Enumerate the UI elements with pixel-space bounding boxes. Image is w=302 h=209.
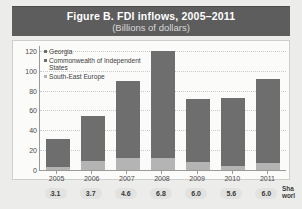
x-axis-label: 2010 (220, 175, 244, 183)
share-row-marker-dot (50, 194, 52, 196)
share-caption-line-1: Sha (282, 185, 302, 192)
x-axis-label: 2009 (185, 175, 209, 183)
y-tick-label: 100 (17, 67, 37, 74)
y-tick-label: 0 (17, 167, 37, 174)
legend-swatch-icon (44, 75, 47, 78)
x-axis-label: 2007 (115, 175, 139, 183)
figure-title-banner: Figure B. FDI inflows, 2005–2011 (Billio… (12, 6, 290, 36)
share-of-world-value: 5.6 (220, 188, 242, 199)
legend-item: South-East Europe (44, 73, 150, 81)
y-tick-label: 40 (17, 127, 37, 134)
bar-segment-south-east-europe (221, 166, 245, 170)
legend-label: South-East Europe (49, 73, 150, 81)
figure-subtitle: (Billions of dollars) (112, 22, 190, 33)
chart-plot-wrapper: 020406080100120 GeorgiaCommonwealth of I… (13, 41, 291, 181)
legend-label: Georgia (49, 48, 150, 56)
y-tick-label: 80 (17, 87, 37, 94)
bar[interactable] (116, 81, 140, 170)
share-of-world-row: 3.13.74.66.86.05.66.0 (38, 186, 284, 200)
x-tick-mark (232, 171, 233, 174)
share-of-world-value: 6.8 (150, 188, 172, 199)
share-of-world-value: 4.6 (115, 188, 137, 199)
y-tick-label: 60 (17, 107, 37, 114)
bar[interactable] (46, 139, 70, 170)
x-tick-mark (91, 171, 92, 174)
x-axis: 2005200620072008200920102011 (39, 171, 285, 187)
bar-slot (256, 46, 280, 170)
y-tick-label: 120 (17, 47, 37, 54)
legend-item: Commonwealth of Independent States (44, 57, 150, 72)
share-of-world-caption: Sha worl (282, 185, 302, 200)
figure-panel: Figure B. FDI inflows, 2005–2011 (Billio… (0, 0, 302, 209)
bar-segment-south-east-europe (46, 167, 70, 170)
x-tick-mark (267, 171, 268, 174)
legend-swatch-icon (44, 59, 47, 62)
bar-segment-south-east-europe (151, 158, 175, 170)
bar-segment-south-east-europe (116, 158, 140, 170)
x-tick-mark (197, 171, 198, 174)
x-axis-labels: 2005200620072008200920102011 (39, 175, 285, 183)
bar[interactable] (186, 99, 210, 170)
bar-slot (221, 46, 245, 170)
x-tick-mark (126, 171, 127, 174)
bar-slot (151, 46, 175, 170)
share-of-world-value: 6.0 (255, 188, 277, 199)
bar-segment-south-east-europe (186, 162, 210, 170)
share-caption-line-2: worl (282, 192, 302, 199)
x-axis-label: 2006 (80, 175, 104, 183)
bar[interactable] (81, 116, 105, 170)
share-of-world-value: 3.7 (80, 188, 102, 199)
x-axis-label: 2011 (255, 175, 279, 183)
bar[interactable] (151, 51, 175, 170)
legend-swatch-icon (44, 50, 47, 53)
figure-title: Figure B. FDI inflows, 2005–2011 (67, 10, 236, 22)
x-axis-label: 2008 (150, 175, 174, 183)
bar[interactable] (256, 79, 280, 170)
y-tick-label: 20 (17, 147, 37, 154)
x-axis-label: 2005 (45, 175, 69, 183)
chart-container: 020406080100120 GeorgiaCommonwealth of I… (12, 40, 290, 180)
share-of-world-value: 6.0 (185, 188, 207, 199)
x-tick-marks (39, 171, 285, 174)
legend-label: Commonwealth of Independent States (49, 57, 150, 72)
share-of-world-value: 3.1 (45, 188, 67, 199)
x-tick-mark (56, 171, 57, 174)
y-axis: 020406080100120 (13, 41, 37, 181)
bar-slot (186, 46, 210, 170)
bar-segment-south-east-europe (256, 163, 280, 170)
chart-legend: GeorgiaCommonwealth of Independent State… (44, 48, 150, 81)
bar-segment-south-east-europe (81, 161, 105, 170)
x-tick-mark (161, 171, 162, 174)
bar[interactable] (221, 98, 245, 170)
legend-item: Georgia (44, 48, 150, 56)
